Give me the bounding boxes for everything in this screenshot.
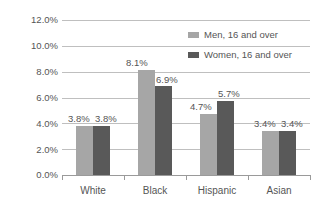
value-label-black-women: 6.9% [156,75,178,85]
legend-label-men: Men, 16 and over [204,30,278,40]
value-label-asian-women: 3.4% [281,119,303,129]
value-label-hispanic-men: 4.7% [190,102,212,112]
value-label-asian-men: 3.4% [254,119,276,129]
y-axis-label-2: 2.0% [6,145,58,155]
legend-swatch-women-icon [188,52,199,58]
bar-black-women[interactable] [155,86,172,175]
value-label-hispanic-women: 5.7% [218,89,240,99]
value-label-black-men: 8.1% [126,58,148,68]
y-axis-label-10: 10.0% [6,41,58,51]
x-axis-tick-0 [62,175,63,180]
value-label-white-women: 3.8% [95,114,117,124]
x-axis-label-asian: Asian [248,185,310,196]
y-axis-label-12: 12.0% [6,15,58,25]
legend-item-men[interactable]: Men, 16 and over [188,25,316,45]
x-axis-label-black: Black [124,185,186,196]
x-axis-label-hispanic: Hispanic [186,185,248,196]
value-label-white-men: 3.8% [68,114,90,124]
x-axis-tick-2 [186,175,187,180]
bar-group-white [62,20,124,175]
bar-group-black [124,20,186,175]
legend-label-women: Women, 16 and over [204,50,292,60]
bar-white-women[interactable] [93,126,110,175]
y-axis-label-6: 6.0% [6,93,58,103]
chart-legend: Men, 16 and over Women, 16 and over [188,25,316,65]
x-axis-tick-3 [248,175,249,180]
y-axis-label-8: 8.0% [6,67,58,77]
x-axis-tick-1 [124,175,125,180]
legend-swatch-men-icon [188,32,199,38]
x-axis-tick-4 [310,175,311,180]
bar-hispanic-women[interactable] [217,101,234,175]
y-axis-label-4: 4.0% [6,119,58,129]
x-axis-label-white: White [62,185,124,196]
bar-asian-women[interactable] [279,131,296,175]
bar-white-men[interactable] [76,126,93,175]
bar-black-men[interactable] [138,70,155,175]
bar-hispanic-men[interactable] [200,114,217,175]
bar-asian-men[interactable] [262,131,279,175]
legend-item-women[interactable]: Women, 16 and over [188,45,316,65]
y-axis-label-0: 0.0% [6,170,58,180]
bar-chart: 12.0% 10.0% 8.0% 6.0% 4.0% 2.0% 0.0% 3.8… [0,0,321,215]
